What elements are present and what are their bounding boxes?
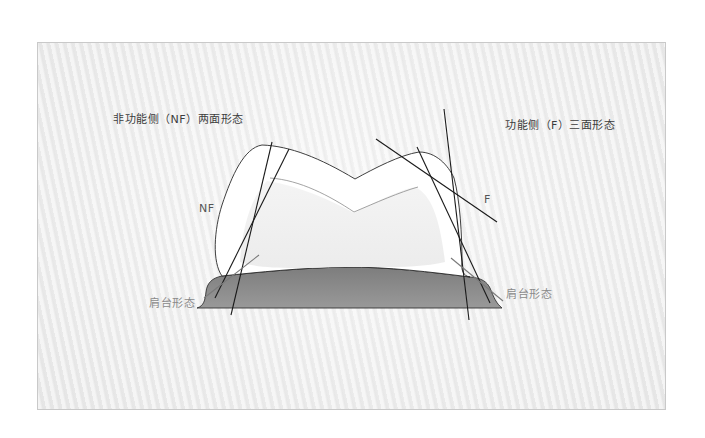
f-side-label: F (484, 193, 491, 206)
nf-title-label: 非功能侧（NF）两面形态 (113, 110, 244, 126)
tooth-preparation-diagram (0, 0, 705, 438)
shoulder-label-left: 肩台形态 (149, 294, 195, 310)
f-title-label: 功能侧（F）三面形态 (505, 116, 615, 132)
shoulder-label-right: 肩台形态 (506, 285, 552, 301)
nf-side-label: NF (199, 202, 215, 215)
